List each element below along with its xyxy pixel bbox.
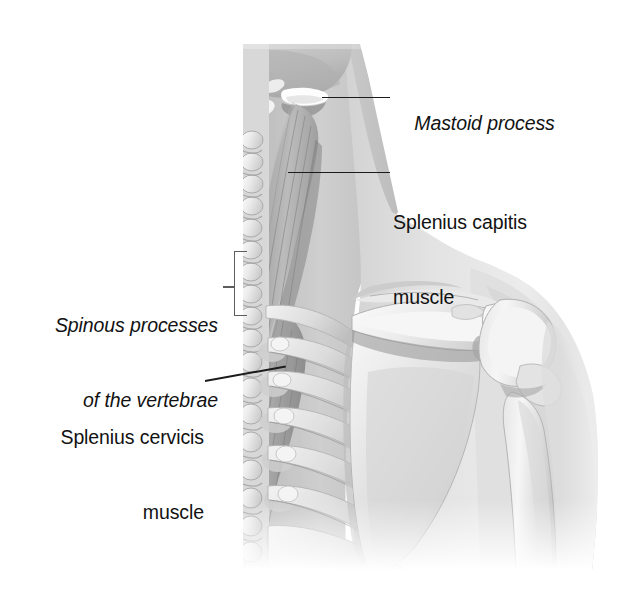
leader-line-mastoid-process [322,97,390,99]
label-mastoid-process: Mastoid process [393,86,555,161]
label-mastoid-process-text: Mastoid process [414,112,554,134]
figure-page: Mastoid process Splenius capitis muscle … [0,0,632,602]
bracket-tick-spinous-processes [223,286,235,288]
label-splenius-cervicis-line2: muscle [60,500,204,525]
label-splenius-cervicis-muscle: Splenius cervicis muscle [60,375,204,575]
label-splenius-capitis-muscle: Splenius capitis muscle [393,160,527,360]
label-spinous-processes-line1: Spinous processes [55,313,218,338]
bracket-spinous-processes [234,251,247,316]
label-splenius-capitis-line1: Splenius capitis [393,210,527,235]
leader-line-splenius-capitis [288,172,390,174]
label-splenius-capitis-line2: muscle [393,285,527,310]
label-splenius-cervicis-line1: Splenius cervicis [60,425,204,450]
